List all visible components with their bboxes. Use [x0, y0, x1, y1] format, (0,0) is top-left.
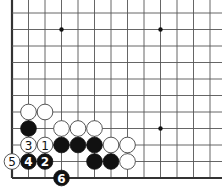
white-stone-icon — [70, 121, 86, 137]
black-stone-move-4: 4 — [21, 154, 37, 170]
black-stone-icon — [87, 137, 103, 153]
black-stone — [87, 154, 103, 170]
white-stone-move-5: 5 — [4, 154, 20, 170]
black-stone — [54, 137, 70, 153]
white-stone-icon — [21, 104, 37, 120]
stones-layer: 315426 — [4, 104, 135, 186]
white-stone — [37, 104, 53, 120]
move-number-label: 3 — [25, 139, 33, 153]
move-number-label: 6 — [57, 172, 65, 186]
white-stone — [87, 121, 103, 137]
white-stone-move-3: 3 — [21, 137, 37, 153]
white-stone — [120, 137, 136, 153]
black-stone-move-6: 6 — [54, 170, 70, 186]
white-stone-icon — [54, 121, 70, 137]
move-number-label: 2 — [41, 155, 49, 169]
black-stone-move-2: 2 — [37, 154, 53, 170]
go-board-diagram: 315426 — [0, 0, 222, 188]
black-stone-icon — [54, 137, 70, 153]
white-stone-icon — [87, 121, 103, 137]
move-number-label: 5 — [8, 155, 16, 169]
black-stone-icon — [70, 137, 86, 153]
white-stone — [120, 154, 136, 170]
black-stone — [103, 154, 119, 170]
white-stone-icon — [103, 137, 119, 153]
white-stone-icon — [120, 154, 136, 170]
black-stone-icon — [103, 154, 119, 170]
white-stone-icon — [120, 137, 136, 153]
move-number-label: 4 — [24, 155, 32, 169]
move-number-label: 1 — [41, 139, 49, 153]
white-stone-icon — [37, 104, 53, 120]
star-point-icon — [59, 27, 63, 31]
white-stone — [70, 121, 86, 137]
black-stone — [21, 121, 37, 137]
white-stone-move-1: 1 — [37, 137, 53, 153]
star-point-icon — [158, 126, 162, 130]
black-stone — [87, 137, 103, 153]
black-stone-icon — [21, 121, 37, 137]
black-stone-icon — [87, 154, 103, 170]
black-stone — [70, 137, 86, 153]
star-point-icon — [158, 27, 162, 31]
white-stone — [103, 137, 119, 153]
white-stone — [54, 121, 70, 137]
white-stone — [21, 104, 37, 120]
